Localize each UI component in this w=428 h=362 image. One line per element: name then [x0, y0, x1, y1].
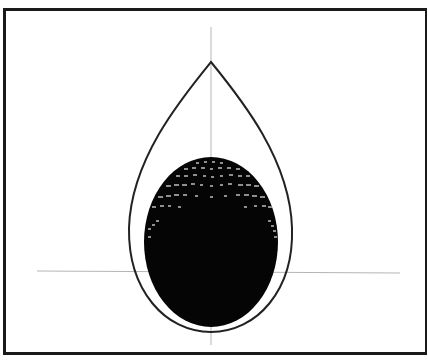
ellipsoid-mesh	[144, 157, 278, 327]
teardrop-diagram	[0, 0, 428, 362]
